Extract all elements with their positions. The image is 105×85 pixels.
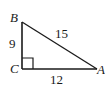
- triangle-diagram: B C A 9 15 12: [0, 0, 105, 85]
- vertex-label-b: B: [10, 10, 18, 25]
- side-label-ca: 12: [50, 72, 63, 85]
- vertex-label-a: A: [96, 62, 105, 77]
- vertex-label-c: C: [10, 61, 19, 76]
- right-angle-marker: [22, 58, 33, 69]
- side-label-bc: 9: [9, 36, 16, 51]
- side-label-ba: 15: [55, 26, 68, 41]
